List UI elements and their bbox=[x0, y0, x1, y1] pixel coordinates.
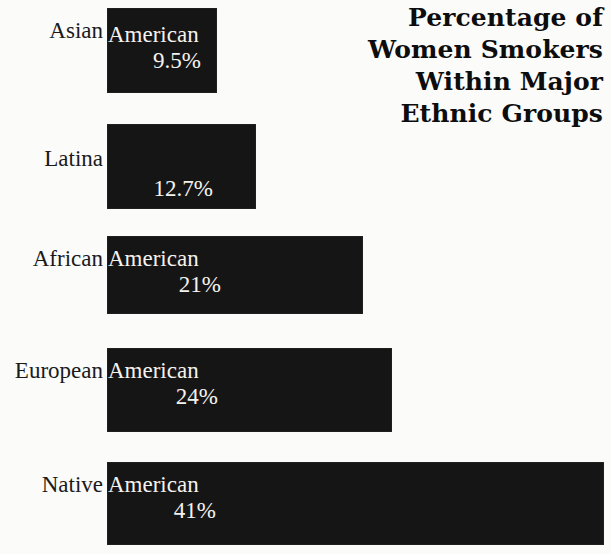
bar-european-american: American 24% bbox=[107, 348, 392, 432]
bar-row: Latina 12.7% bbox=[0, 124, 611, 209]
bar-row: European American 24% bbox=[0, 348, 611, 432]
bar-inner: American 9.5% bbox=[107, 8, 217, 93]
bar-inner: 12.7% bbox=[107, 124, 256, 209]
bar-value-label: 12.7% bbox=[154, 176, 213, 202]
bar-inner: American 24% bbox=[107, 348, 392, 432]
bar-inner: American 41% bbox=[107, 462, 604, 545]
bar-row: Native American 41% bbox=[0, 462, 611, 545]
chart-canvas: Percentage of Women Smokers Within Major… bbox=[0, 0, 611, 554]
bar-asian-american: American 9.5% bbox=[107, 8, 217, 93]
bar-category-label: Asian bbox=[0, 18, 103, 44]
bar-row: African American 21% bbox=[0, 236, 611, 314]
bar-native-american: American 41% bbox=[107, 462, 604, 545]
bar-value-label: 21% bbox=[179, 272, 221, 298]
bar-value-label: 9.5% bbox=[153, 48, 201, 74]
bar-inner: American 21% bbox=[107, 236, 363, 314]
bar-inside-label: American bbox=[108, 246, 199, 272]
bar-inside-label: American bbox=[108, 22, 199, 48]
bar-latina: 12.7% bbox=[107, 124, 256, 209]
bar-value-label: 41% bbox=[174, 498, 216, 524]
bar-category-label: African bbox=[0, 246, 103, 272]
bar-category-label: Latina bbox=[0, 146, 103, 172]
bar-category-label: Native bbox=[0, 472, 103, 498]
bar-value-label: 24% bbox=[176, 384, 218, 410]
bar-inside-label: American bbox=[108, 358, 199, 384]
bar-row: Asian American 9.5% bbox=[0, 8, 611, 93]
bar-inside-label: American bbox=[108, 472, 199, 498]
bar-category-label: European bbox=[0, 358, 103, 384]
bar-african-american: American 21% bbox=[107, 236, 363, 314]
